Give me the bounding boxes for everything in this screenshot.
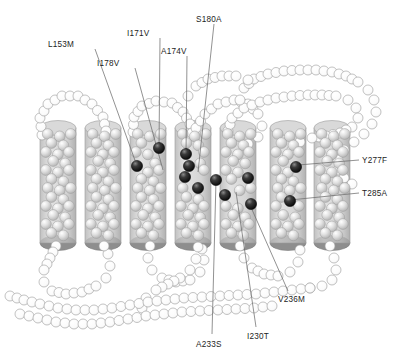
mutation-label-a174v: A174V <box>161 48 187 56</box>
mutation-label-v236m: V236M <box>278 296 305 304</box>
mutation-sphere <box>290 161 301 172</box>
mutation-label-a233s: A233S <box>196 341 222 349</box>
mutation-sphere <box>180 148 191 159</box>
mutation-sphere <box>210 174 221 185</box>
figure-canvas: L153MI178VI171VA174VS180AY277FT285AV236M… <box>0 0 406 360</box>
mutation-sphere <box>219 189 230 200</box>
mutation-sphere <box>192 182 203 193</box>
mutation-sphere <box>245 198 256 209</box>
mutation-sphere <box>153 142 164 153</box>
mutation-label-l153m: L153M <box>48 41 74 49</box>
mutation-label-s180a: S180A <box>196 16 222 24</box>
mutation-label-i178v: I178V <box>97 60 119 68</box>
mutation-sphere <box>284 195 295 206</box>
mutation-sphere <box>242 172 253 183</box>
mutation-sphere <box>131 160 142 171</box>
mutation-label-i230t: I230T <box>247 333 269 341</box>
mutation-sphere <box>179 171 190 182</box>
mutation-label-y277f: Y277F <box>362 157 387 165</box>
mutation-label-i171v: I171V <box>127 30 149 38</box>
mutation-sphere <box>183 160 194 171</box>
loop-bottom-1-2 <box>39 241 115 299</box>
protein-topology-diagram <box>0 0 406 360</box>
mutation-label-t285a: T285A <box>362 190 387 198</box>
